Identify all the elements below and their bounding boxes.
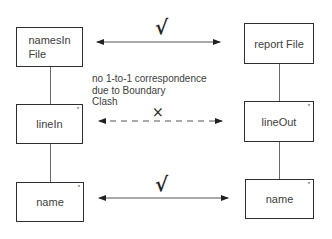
note-line: Clash <box>92 96 207 108</box>
check-mark-icon: √ <box>155 172 168 196</box>
check-mark-icon: √ <box>155 15 168 39</box>
note-line: no 1-to-1 correspondence <box>92 73 207 85</box>
boundary-clash-note: no 1-to-1 correspondence due to Boundary… <box>92 73 207 108</box>
note-line: due to Boundary <box>92 85 207 97</box>
